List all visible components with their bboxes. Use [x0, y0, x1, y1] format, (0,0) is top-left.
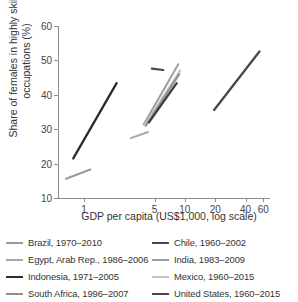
series-line	[73, 83, 116, 158]
chart-figure: Share of females in highly skilled occup…	[0, 0, 298, 302]
legend-label: Indonesia, 1971–2005	[28, 271, 119, 282]
x-axis-title: GDP per capita (US$1,000, log scale)	[40, 210, 298, 222]
legend-swatch-icon	[152, 276, 169, 278]
y-tick-label: 30	[41, 124, 52, 135]
legend-item[interactable]: Indonesia, 1971–2005	[6, 271, 152, 282]
x-tick	[215, 198, 216, 202]
legend-swatch-icon	[6, 276, 23, 278]
legend-label: Chile, 1960–2002	[174, 237, 246, 248]
legend-item[interactable]: Egypt, Arab Rep., 1986–2006	[6, 254, 152, 265]
y-tick-label: 20	[41, 158, 52, 169]
y-tick-label: 10	[41, 193, 52, 204]
x-axis-line	[58, 198, 270, 199]
legend-swatch-icon	[152, 242, 169, 244]
legend-swatch-icon	[6, 242, 23, 244]
legend-item[interactable]: India, 1983–2009	[152, 254, 298, 265]
y-tick-label: 40	[41, 89, 52, 100]
legend-label: Brazil, 1970–2010	[28, 237, 102, 248]
series-line	[149, 83, 177, 122]
chart-legend: Brazil, 1970–2010Chile, 1960–2002Egypt, …	[6, 234, 296, 302]
legend-label: India, 1983–2009	[174, 254, 245, 265]
series-line	[214, 51, 259, 109]
y-axis-title: Share of females in highly skilled occup…	[7, 0, 33, 145]
legend-label: South Africa, 1996–2007	[28, 288, 128, 299]
legend-swatch-icon	[152, 293, 169, 295]
legend-label: Egypt, Arab Rep., 1986–2006	[28, 254, 148, 265]
legend-label: Mexico, 1960–2015	[174, 271, 254, 282]
series-line	[131, 132, 148, 138]
x-tick	[185, 198, 186, 202]
plot-area: 102030405060 1510204060	[58, 26, 270, 198]
legend-swatch-icon	[6, 259, 23, 261]
y-tick	[54, 198, 58, 199]
legend-item[interactable]: United States, 1960–2015	[152, 288, 298, 299]
x-tick	[246, 198, 247, 202]
series-line	[66, 169, 90, 178]
legend-item[interactable]: Mexico, 1960–2015	[152, 271, 298, 282]
y-tick-label: 60	[41, 21, 52, 32]
series-line	[145, 70, 180, 125]
legend-swatch-icon	[152, 259, 169, 261]
legend-label: United States, 1960–2015	[174, 288, 280, 299]
legend-item[interactable]: South Africa, 1996–2007	[6, 288, 152, 299]
series-line	[152, 69, 163, 70]
legend-item[interactable]: Brazil, 1970–2010	[6, 237, 152, 248]
x-tick	[263, 198, 264, 202]
legend-item[interactable]: Chile, 1960–2002	[152, 237, 298, 248]
legend-swatch-icon	[6, 293, 23, 295]
y-tick-label: 50	[41, 55, 52, 66]
series-line	[144, 64, 179, 124]
x-tick	[155, 198, 156, 202]
series-lines	[58, 26, 270, 198]
x-tick	[84, 198, 85, 202]
